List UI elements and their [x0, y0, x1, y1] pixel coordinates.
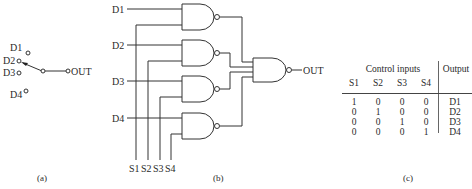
select-label-s2: S2	[141, 163, 152, 174]
caption-a: (a)	[37, 173, 47, 183]
table-row: 0 0 1 0 D3	[342, 117, 472, 127]
panel-b-circuit: D1 D2 D3 D4 S1 S2 S3 S4	[112, 4, 324, 174]
table-column-headers: S1 S2 S3 S4	[342, 78, 438, 88]
select-label-s3: S3	[153, 163, 164, 174]
switch-output-label: OUT	[71, 66, 92, 77]
select-label-s4: S4	[165, 163, 176, 174]
select-label-s1: S1	[129, 163, 140, 174]
table-row: 0 0 0 1 D4	[342, 127, 472, 137]
nand-gate-3	[182, 76, 220, 102]
panel-a-switch: D1 D2 D3 D4 OUT	[3, 42, 92, 100]
column-header-s2: S2	[366, 78, 390, 88]
input-label-d3: D3	[112, 76, 124, 87]
circuit-output-label: OUT	[303, 65, 324, 76]
nand-gate-2	[182, 40, 220, 66]
column-header-s3: S3	[390, 78, 414, 88]
column-header-s1: S1	[342, 78, 366, 88]
input-label-d2: D2	[112, 40, 124, 51]
input-label-d1: D1	[112, 4, 124, 15]
switch-label-d4: D4	[10, 89, 22, 100]
table-divider-horizontal	[342, 93, 472, 94]
multiplexer-figure: D1 D2 D3 D4 OUT (a) D1 D2 D3 D4 S1	[0, 0, 472, 189]
caption-b: (b)	[213, 173, 224, 183]
switch-label-d2: D2	[3, 55, 15, 66]
table-row: 1 0 0 0 D1	[342, 97, 472, 107]
input-label-d4: D4	[112, 113, 124, 124]
table-row: 0 1 0 0 D2	[342, 107, 472, 117]
switch-label-d3: D3	[3, 67, 15, 78]
caption-c: (c)	[403, 173, 413, 183]
switch-arrow-icon	[21, 62, 28, 66]
column-header-s4: S4	[414, 78, 438, 88]
switch-label-d1: D1	[10, 42, 22, 53]
header-control-inputs: Control inputs	[352, 64, 434, 74]
nand-gate-4	[182, 113, 220, 139]
header-output: Output	[440, 64, 472, 74]
nand-gate-output	[253, 58, 292, 82]
nand-gate-1	[182, 4, 220, 30]
